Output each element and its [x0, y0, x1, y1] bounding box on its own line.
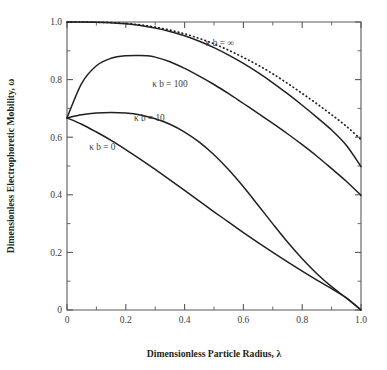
y-axis-title: Dimensionless Electrophoretic Mobility, …	[5, 79, 16, 254]
y-tick-label: 0	[57, 305, 62, 315]
x-axis-title: Dimensionless Particle Radius, λ	[147, 348, 282, 359]
x-tick-label: 0.6	[237, 315, 249, 325]
annotation-label: κ b = ∞	[206, 38, 235, 48]
chart-canvas: 00.20.40.60.81.000.20.40.60.81.0 κ b = ∞…	[0, 0, 387, 370]
x-tick-label: 0.8	[296, 315, 308, 325]
chart-figure: 00.20.40.60.81.000.20.40.60.81.0 κ b = ∞…	[0, 0, 387, 370]
annotation-label: κ b = 0	[89, 142, 116, 152]
annotation-label: κ b = 100	[152, 79, 188, 89]
x-tick-label: 0	[65, 315, 70, 325]
x-tick-label: 0.4	[179, 315, 191, 325]
y-tick-label: 0.6	[50, 133, 62, 143]
y-tick-label: 0.8	[50, 75, 62, 85]
x-tick-label: 0.2	[120, 315, 132, 325]
y-tick-label: 0.2	[50, 248, 62, 258]
x-tick-label: 1.0	[355, 315, 367, 325]
annotation-label: κ b = 10	[134, 113, 165, 123]
y-tick-label: 1.0	[50, 17, 62, 27]
y-tick-label: 0.4	[50, 190, 62, 200]
